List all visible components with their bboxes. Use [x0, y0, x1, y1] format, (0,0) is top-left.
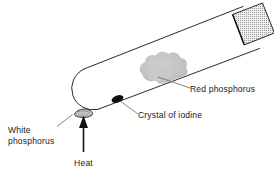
diagram-root: Red phosphorus Crystal of iodine White p…: [0, 0, 274, 178]
label-heat: Heat: [74, 158, 93, 168]
leader-line-white-phosphorus: [57, 115, 73, 127]
leader-line-crystal-of-iodine: [120, 101, 139, 115]
label-white-phosphorus-line1: White: [8, 125, 31, 135]
label-white-phosphorus-line2: phosphorus: [8, 136, 54, 146]
label-red-phosphorus: Red phosphorus: [190, 84, 255, 94]
label-crystal-of-iodine: Crystal of iodine: [138, 110, 202, 120]
heat-arrow: [79, 116, 88, 153]
phosphorus-test-tube-diagram: Red phosphorus Crystal of iodine White p…: [0, 0, 274, 178]
